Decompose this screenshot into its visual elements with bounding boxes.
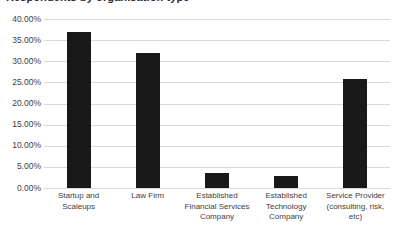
y-axis-tick-label: 5.00% [1, 162, 41, 171]
bar [205, 173, 229, 188]
y-axis-tick-label: 35.00% [1, 36, 41, 45]
gridline [44, 146, 390, 147]
x-axis-category-label: Established Technology Company [252, 191, 320, 223]
gridline [44, 19, 390, 20]
y-axis-tick-label: 10.00% [1, 141, 41, 150]
y-axis-tick-label: 40.00% [1, 15, 41, 24]
gridline [44, 125, 390, 126]
plot-area [44, 19, 390, 188]
gridline [44, 167, 390, 168]
x-axis-category-label: Law Firm [114, 191, 182, 202]
gridline [44, 104, 390, 105]
x-axis-category-label: Startup and Scaleups [45, 191, 113, 212]
y-axis-tick-label: 20.00% [1, 99, 41, 108]
bar-chart: Respondents by organisation type 40.00%3… [0, 0, 396, 240]
x-axis-category-label: Established Financial Services Company [183, 191, 251, 223]
bar [136, 53, 160, 188]
bar [343, 79, 367, 188]
y-axis-tick-label: 0.00% [1, 184, 41, 193]
gridline [44, 40, 390, 41]
y-axis-tick-label: 30.00% [1, 57, 41, 66]
y-axis-tick-label: 15.00% [1, 120, 41, 129]
gridline [44, 61, 390, 62]
y-axis: 40.00%35.00%30.00%25.00%20.00%15.00%10.0… [0, 0, 41, 240]
gridline [44, 82, 390, 83]
bar [67, 32, 91, 188]
bar [274, 176, 298, 188]
gridline [44, 188, 390, 189]
x-axis-category-label: Service Provider (consulting, risk, etc) [321, 191, 389, 223]
y-axis-tick-label: 25.00% [1, 78, 41, 87]
